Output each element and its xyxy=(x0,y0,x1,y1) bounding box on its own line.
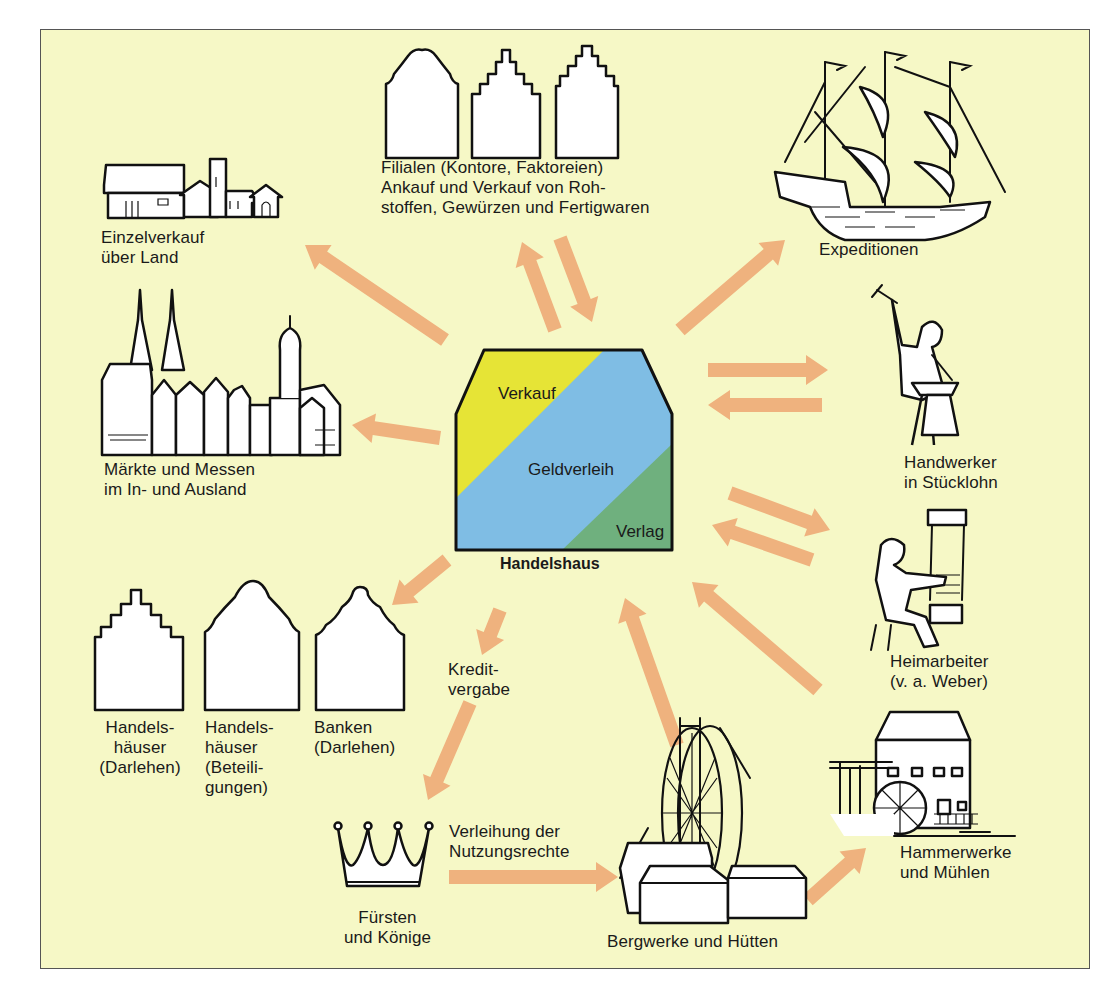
curved-gable-house-icon xyxy=(203,577,301,712)
handelshaus-diagram: Verkauf Geldverleih Verlag xyxy=(450,342,674,552)
bank-gable-house-icon xyxy=(314,585,406,712)
filialen-label: Filialen (Kontore, Faktoreien) Ankauf un… xyxy=(381,158,650,218)
fuersten-label: Fürsten und Könige xyxy=(330,908,445,948)
expeditionen-label: Expeditionen xyxy=(819,240,919,260)
hammerwerke-label: Hammerwerke und Mühlen xyxy=(900,843,1012,883)
handwerker-label: Handwerker in Stücklohn xyxy=(904,453,998,493)
town-cathedral-icon xyxy=(100,290,345,458)
verleihung-label: Verleihung der Nutzungsrechte xyxy=(449,822,569,862)
blacksmith-icon xyxy=(872,285,972,445)
mine-waterwheel-icon xyxy=(620,718,820,924)
geldverleih-label: Geldverleih xyxy=(528,460,614,480)
verkauf-label: Verkauf xyxy=(498,384,556,404)
bergwerke-label: Bergwerke und Hütten xyxy=(607,932,778,952)
einzelverkauf-label: Einzelverkauf über Land xyxy=(101,228,204,268)
village-icon xyxy=(102,155,307,220)
kreditvergabe-label: Kredit- vergabe xyxy=(448,660,510,700)
watermill-icon xyxy=(830,710,1015,840)
heimarbeiter-label: Heimarbeiter (v. a. Weber) xyxy=(890,652,989,692)
handelshaeuser-darlehen-label: Handels- häuser (Darlehen) xyxy=(80,718,200,778)
gabled-houses-icon xyxy=(384,42,624,160)
sailing-ship-icon xyxy=(765,42,1005,227)
maerkte-label: Märkte und Messen im In- und Ausland xyxy=(104,460,255,500)
banken-label: Banken (Darlehen) xyxy=(314,718,395,758)
handelshaus-title: Handelshaus xyxy=(500,555,600,573)
verlag-label: Verlag xyxy=(616,522,664,542)
weaver-icon xyxy=(866,505,976,650)
crown-icon xyxy=(333,820,433,890)
handelshaeuser-beteiligungen-label: Handels- häuser (Beteili- gungen) xyxy=(205,718,274,798)
stepped-gable-house-icon xyxy=(93,582,186,712)
